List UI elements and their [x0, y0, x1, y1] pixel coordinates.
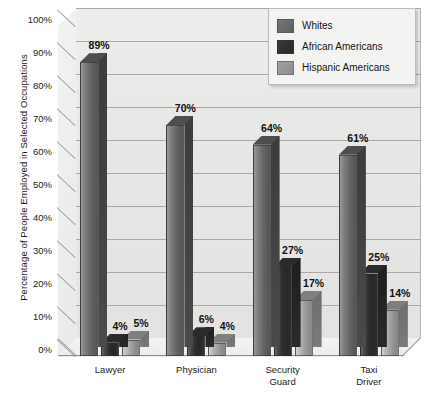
value-label-african-americans-1: 6%: [199, 313, 214, 325]
legend-swatch-whites: [277, 19, 294, 33]
legend-label-african-americans: African Americans: [302, 41, 383, 52]
legend-label-whites: Whites: [302, 20, 333, 31]
bar-whites-1[interactable]: [166, 125, 184, 356]
value-label-hispanic-americans-3: 14%: [389, 287, 410, 299]
value-label-whites-2: 64%: [261, 122, 282, 134]
bar-side-face: [271, 136, 280, 347]
value-label-whites-1: 70%: [175, 102, 196, 114]
bar-side-face: [313, 291, 322, 347]
bar-side-face: [378, 265, 387, 348]
y-axis-tick-label: 60%: [18, 146, 52, 157]
value-label-african-americans-2: 27%: [282, 244, 303, 256]
value-label-hispanic-americans-2: 17%: [303, 277, 324, 289]
y-axis-tick-label: 100%: [18, 14, 52, 25]
x-axis-label-0: Lawyer: [95, 364, 126, 376]
y-axis-tick-label: 70%: [18, 113, 52, 124]
bar-front-face: [166, 125, 184, 356]
legend-label-hispanic-americans: Hispanic Americans: [302, 62, 390, 73]
bar-front-face: [339, 155, 357, 356]
bar-front-face: [253, 145, 271, 356]
value-label-whites-0: 89%: [89, 39, 110, 51]
y-axis-tick-labels: 100%90%80%70%60%50%40%30%20%10%0%: [18, 0, 52, 401]
bar-whites-0[interactable]: [80, 62, 98, 356]
legend-item-whites[interactable]: Whites: [277, 15, 409, 36]
x-axis-label-3: Taxi Driver: [356, 364, 381, 388]
y-axis-tick-label: 20%: [18, 278, 52, 289]
y-axis-tick-label: 80%: [18, 80, 52, 91]
x-axis-label-1: Physician: [176, 364, 217, 376]
value-label-african-americans-3: 25%: [368, 251, 389, 263]
value-label-african-americans-0: 4%: [113, 320, 128, 332]
bar-side-face: [184, 116, 193, 347]
y-axis-tick-label: 40%: [18, 212, 52, 223]
bar-side-face: [98, 53, 107, 347]
value-label-hispanic-americans-0: 5%: [134, 317, 149, 329]
legend-item-hispanic-americans[interactable]: Hispanic Americans: [277, 57, 409, 78]
bar-side-face: [357, 146, 366, 347]
legend-swatch-hispanic-americans: [277, 61, 294, 75]
legend-swatch-african-americans: [277, 40, 294, 54]
bar-whites-2[interactable]: [253, 145, 271, 356]
bar-side-face: [292, 258, 301, 347]
legend-item-african-americans[interactable]: African Americans: [277, 36, 409, 57]
y-axis-tick-label: 0%: [18, 344, 52, 355]
y-axis-tick-label: 10%: [18, 311, 52, 322]
x-axis-label-2: Security Guard: [265, 364, 299, 388]
bar-chart: Percentage of People Employed in Selecte…: [0, 0, 436, 401]
value-label-hispanic-americans-1: 4%: [220, 320, 235, 332]
bar-front-face: [80, 62, 98, 356]
bar-whites-3[interactable]: [339, 155, 357, 356]
legend: Whites African Americans Hispanic Americ…: [268, 8, 416, 85]
y-axis-tick-label: 30%: [18, 245, 52, 256]
y-axis-tick-label: 90%: [18, 47, 52, 58]
y-axis-tick-label: 50%: [18, 179, 52, 190]
value-label-whites-3: 61%: [347, 132, 368, 144]
